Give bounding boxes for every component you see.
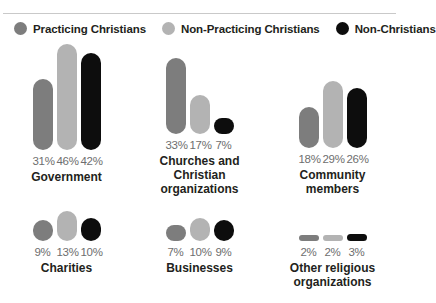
bar-group-charities: 9% 13% 10% Charities [0, 196, 133, 303]
category-label-line: Charities [41, 261, 92, 275]
bar [190, 95, 210, 134]
category-label-line: members [300, 182, 366, 196]
legend-label: Non-Practicing Christians [181, 23, 320, 35]
value-labels: 2% 2% 3% [299, 246, 367, 258]
bar-group-businesses: 7% 10% 9% Businesses [133, 196, 266, 303]
category-label-line: Community [300, 168, 366, 182]
legend-label: Practicing Christians [33, 23, 146, 35]
category-label: Other religious organizations [290, 261, 375, 289]
value-label: 9% [214, 246, 234, 258]
value-label: 7% [166, 246, 186, 258]
bar [190, 218, 210, 241]
bar [57, 44, 77, 150]
chart-legend: Practicing Christians Non-Practicing Chr… [14, 22, 389, 35]
bar [214, 118, 234, 134]
value-label: 42% [81, 155, 101, 167]
bar-group-government: 31% 46% 42% Government [0, 44, 133, 196]
bar [323, 81, 343, 148]
value-label: 13% [57, 246, 77, 258]
category-label-line: Other religious [290, 261, 375, 275]
category-label-line: Government [31, 170, 102, 184]
bar [347, 234, 367, 241]
legend-dot-icon [162, 22, 175, 35]
legend-label: Non-Christians [355, 23, 436, 35]
bar-chart: 31% 46% 42% Government 33% 17% 7% Church… [0, 44, 399, 303]
bars [33, 196, 101, 241]
bars [166, 196, 234, 241]
bar-group-community-members: 18% 29% 26% Community members [266, 44, 399, 196]
bar [166, 58, 186, 134]
category-label-line: Businesses [166, 261, 233, 275]
category-label: Churches and Christian organizations [133, 154, 266, 196]
bar [33, 79, 53, 150]
category-label: Businesses [166, 261, 233, 275]
bar-group-churches-and-christian-organizations: 33% 17% 7% Churches and Christian organi… [133, 44, 266, 196]
bars [33, 44, 101, 150]
chart-row-bottom: 9% 13% 10% Charities 7% 10% 9% Businesse… [0, 196, 399, 303]
value-label: 2% [299, 246, 319, 258]
chart-row-top: 31% 46% 42% Government 33% 17% 7% Church… [0, 44, 399, 196]
bar [33, 220, 53, 241]
legend-dot-icon [336, 22, 349, 35]
bar [299, 235, 319, 241]
value-labels: 31% 46% 42% [33, 155, 101, 167]
legend-item-practicing-christians: Practicing Christians [14, 22, 146, 35]
value-label: 10% [81, 246, 101, 258]
bar [214, 220, 234, 241]
category-label-line: Christian organizations [133, 168, 266, 196]
category-label: Charities [41, 261, 92, 275]
bars [299, 44, 367, 148]
top-caption [0, 0, 399, 4]
bar [347, 88, 367, 148]
category-label: Community members [300, 168, 366, 196]
bar [57, 211, 77, 241]
value-label: 7% [214, 139, 234, 151]
value-label: 46% [57, 155, 77, 167]
value-label: 9% [33, 246, 53, 258]
legend-dot-icon [14, 22, 27, 35]
value-label: 33% [166, 139, 186, 151]
value-label: 26% [347, 153, 367, 165]
bar [299, 107, 319, 148]
legend-item-non-christians: Non-Christians [336, 22, 436, 35]
value-label: 2% [323, 246, 343, 258]
value-label: 18% [299, 153, 319, 165]
value-labels: 7% 10% 9% [166, 246, 234, 258]
bar [81, 218, 101, 241]
bars [166, 44, 234, 134]
legend-item-non-practicing-christians: Non-Practicing Christians [162, 22, 320, 35]
value-labels: 33% 17% 7% [166, 139, 234, 151]
value-label: 3% [347, 246, 367, 258]
bar [81, 53, 101, 150]
value-label: 29% [323, 153, 343, 165]
bars [299, 196, 367, 241]
category-label: Government [31, 170, 102, 184]
header-divider [3, 13, 396, 14]
category-label-line: Churches and [133, 154, 266, 168]
value-labels: 18% 29% 26% [299, 153, 367, 165]
bar [166, 225, 186, 241]
value-labels: 9% 13% 10% [33, 246, 101, 258]
category-label-line: organizations [290, 275, 375, 289]
value-label: 17% [190, 139, 210, 151]
value-label: 10% [190, 246, 210, 258]
value-label: 31% [33, 155, 53, 167]
bar [323, 235, 343, 241]
bar-group-other-religious-organizations: 2% 2% 3% Other religious organizations [266, 196, 399, 303]
